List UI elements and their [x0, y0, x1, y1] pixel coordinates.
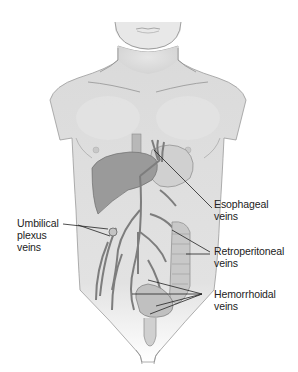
label-esophageal-veins: Esophageal veins — [214, 198, 268, 222]
label-umbilical-line1: Umbilical — [17, 217, 59, 229]
label-retroperitoneal-line1: Retroperitoneal — [214, 245, 284, 257]
label-retroperitoneal-line2: veins — [214, 257, 284, 269]
label-umbilical-line2: plexus — [17, 229, 59, 241]
head-chin — [115, 22, 181, 50]
torso-anatomy-illustration — [0, 0, 298, 372]
label-umbilical-plexus-veins: Umbilical plexus veins — [17, 217, 59, 253]
label-retroperitoneal-veins: Retroperitoneal veins — [214, 245, 284, 269]
anal-canal — [144, 318, 156, 346]
label-hemorrhoidal-line1: Hemorrhoidal — [214, 288, 276, 300]
label-hemorrhoidal-veins: Hemorrhoidal veins — [214, 288, 276, 312]
umbilical-plexus — [109, 228, 117, 236]
label-esophageal-line1: Esophageal — [214, 198, 268, 210]
left-nipple — [93, 147, 99, 153]
label-umbilical-line3: veins — [17, 241, 59, 253]
label-hemorrhoidal-line2: veins — [214, 300, 276, 312]
label-esophageal-line2: veins — [214, 210, 268, 222]
